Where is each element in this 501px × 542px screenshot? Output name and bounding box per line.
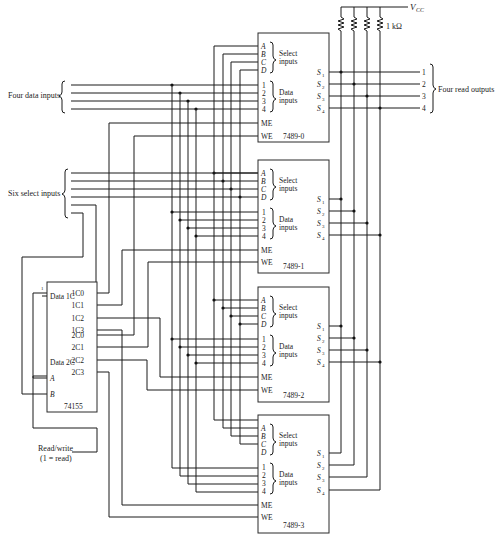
output-pin-s3: S [317,473,321,482]
output-pin-s4: S [317,231,321,240]
output-pin-s3: S [317,92,321,101]
svg-text:(1 = read): (1 = read) [40,454,72,463]
svg-text:inputs: inputs [279,311,297,320]
output-pin-s3: S [317,219,321,228]
data-pin-4: 4 [262,232,266,241]
svg-text:1: 1 [41,286,44,291]
svg-text:2C0: 2C0 [71,331,84,340]
output-pin-s4: S [317,486,321,495]
we-pin: WE [261,513,273,522]
svg-text:inputs: inputs [279,96,297,105]
select-pin-D: D [260,193,267,202]
chip-name: 7489-3 [283,521,304,530]
data-inputs-label: Four data inputs [8,91,60,100]
svg-text:inputs: inputs [279,57,297,66]
output-pin-s2: S [317,207,321,216]
me-pin: ME [261,246,273,255]
svg-text:CC: CC [416,7,425,13]
read-write-input: Read/write (1 = read) [38,444,74,463]
me-pin: ME [261,119,273,128]
svg-text:1C2: 1C2 [71,314,84,323]
output-pin-s2: S [317,334,321,343]
decoder-name: 74155 [64,402,83,411]
svg-text:1C0: 1C0 [71,289,84,298]
data-pin-4: 4 [262,105,266,114]
output-pin-s3: S [317,346,321,355]
svg-text:2C3: 2C3 [71,368,84,377]
svg-text:inputs: inputs [279,350,297,359]
svg-text:1: 1 [422,68,426,77]
svg-text:1C1: 1C1 [71,301,84,310]
chip-name: 7489-2 [283,391,304,400]
svg-text:Read/write: Read/write [38,444,74,453]
output-pin-s4: S [317,104,321,113]
select-pin-D: D [260,448,267,457]
chip-name: 7489-1 [283,262,304,271]
resistor-value-label: 1 kΩ [386,22,402,31]
svg-text:2C1: 2C1 [71,343,84,352]
we-pin: WE [261,258,273,267]
svg-text:3: 3 [422,92,426,101]
svg-text:inputs: inputs [279,439,297,448]
we-pin: WE [261,386,273,395]
data-2c-pin: Data 2C [50,358,75,367]
svg-text:4: 4 [422,104,426,113]
svg-text:inputs: inputs [279,223,297,232]
read-outputs-label: Four read outputs [438,85,494,94]
b-pin: B [50,390,55,399]
me-pin: ME [261,501,273,510]
chip-name: 7489-0 [283,132,304,141]
svg-text:2: 2 [422,80,426,89]
select-input-bus: Six select inputs [8,46,258,444]
we-pin: WE [261,132,273,141]
data-input-bus: Four data inputs [8,81,258,492]
select-pin-D: D [260,66,267,75]
data-pin-4: 4 [262,487,266,496]
output-pin-s4: S [317,358,321,367]
output-pin-s1: S [317,68,321,77]
output-pin-s1: S [317,195,321,204]
output-pin-s1: S [317,449,321,458]
output-pin-s2: S [317,461,321,470]
select-pin-D: D [260,320,267,329]
a-pin: A [49,374,55,383]
decoder-74155: 1 Data 1C A B 1C0 1C1 1C2 1C3 2C2 2C0 2C… [41,282,97,412]
select-inputs-label: Six select inputs [8,189,60,198]
output-bus [341,300,380,490]
svg-text:inputs: inputs [279,478,297,487]
output-pin-s2: S [317,80,321,89]
me-pin: ME [261,373,273,382]
svg-text:inputs: inputs [279,184,297,193]
pull-up-resistors: 1 kΩ [338,7,402,300]
circuit-svg: V CC 1 kΩ 1 2 3 4 Four read outputs [0,0,501,542]
memory-expansion-diagram: V CC 1 kΩ 1 2 3 4 Four read outputs [0,0,501,542]
data-pin-4: 4 [262,359,266,368]
output-pin-s1: S [317,322,321,331]
